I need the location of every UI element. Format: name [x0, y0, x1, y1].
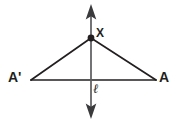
label-line-l: ℓ [93, 82, 98, 95]
segment-x-to-a [91, 38, 156, 80]
point-x-dot [88, 35, 95, 42]
label-vertex-a: A [159, 70, 169, 84]
geometry-diagram-svg [0, 0, 176, 122]
segment-x-to-a-prime [31, 38, 91, 80]
geometry-figure: X A' A ℓ [0, 0, 176, 122]
label-vertex-a-prime: A' [8, 70, 21, 84]
label-point-x: X [96, 27, 104, 39]
